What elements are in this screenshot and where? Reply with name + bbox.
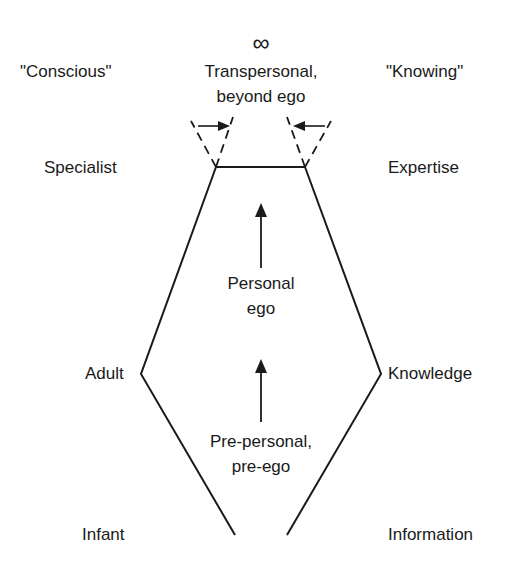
upper-up-arrow-icon [255, 203, 267, 268]
personal-ego-label: Personal ego [227, 271, 294, 321]
developmental-outline-right [287, 167, 381, 535]
personal-ego-line2: ego [227, 296, 294, 321]
left-column-header: "Conscious" [20, 62, 111, 82]
level-label-knowledge: Knowledge [388, 364, 472, 384]
transpersonal-line1: Transpersonal, [205, 59, 318, 84]
lower-up-arrow-icon [255, 359, 267, 422]
pre-personal-line1: Pre-personal, [210, 429, 312, 454]
right-dashed-funnel [287, 117, 331, 167]
transpersonal-line2: beyond ego [205, 84, 318, 109]
left-dashed-funnel [191, 117, 233, 167]
consciousness-knowing-diagram: ∞ "Conscious" "Knowing" Transpersonal, b… [0, 0, 520, 575]
transpersonal-label: Transpersonal, beyond ego [205, 59, 318, 109]
level-label-adult: Adult [85, 364, 124, 384]
infinity-icon: ∞ [252, 31, 269, 55]
developmental-outline-left [141, 167, 235, 535]
pre-personal-label: Pre-personal, pre-ego [210, 429, 312, 479]
level-label-specialist: Specialist [44, 158, 117, 178]
pre-personal-line2: pre-ego [210, 454, 312, 479]
level-label-expertise: Expertise [388, 158, 459, 178]
level-label-information: Information [388, 525, 473, 545]
personal-ego-line1: Personal [227, 271, 294, 296]
right-column-header: "Knowing" [386, 62, 463, 82]
level-label-infant: Infant [82, 525, 125, 545]
